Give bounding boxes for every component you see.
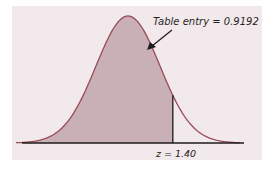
shaded-area (16, 16, 173, 143)
arrow-shaft (152, 30, 172, 46)
z-value-label: z = 1.40 (156, 148, 196, 159)
table-entry-label: Table entry = 0.9192 (153, 16, 259, 27)
